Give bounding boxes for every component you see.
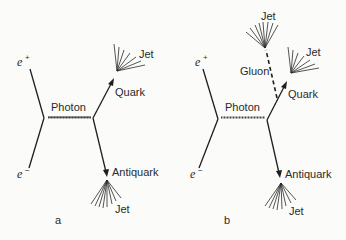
electron-line <box>199 119 218 168</box>
antiquark-line <box>267 120 279 173</box>
panel-a-caption: a <box>55 214 62 226</box>
quark-label: Quark <box>288 88 318 100</box>
positron-symbol: e <box>17 55 23 69</box>
quark-line <box>93 82 112 118</box>
antiquark-jet-label: Jet <box>115 203 130 215</box>
electron-symbol: e <box>17 167 23 181</box>
antiquark-label: Antiquark <box>112 166 159 178</box>
quark-jet-label: Jet <box>139 48 154 60</box>
positron-charge: + <box>203 53 208 62</box>
quark-arrow-icon <box>281 81 287 89</box>
positron-symbol: e <box>195 55 201 69</box>
antiquark-arrow-icon <box>103 169 109 177</box>
positron-line <box>203 69 218 119</box>
antiquark-label: Antiquark <box>285 168 332 180</box>
electron-charge: − <box>198 166 203 175</box>
gluon-jet-fan <box>246 22 278 48</box>
electron-label: e − <box>190 166 203 181</box>
antiquark-arrow-icon <box>276 170 282 178</box>
photon-label: Photon <box>225 101 260 113</box>
electron-symbol: e <box>190 167 196 181</box>
electron-line <box>29 118 44 168</box>
quark-label: Quark <box>115 86 145 98</box>
panel-b-caption: b <box>224 214 230 226</box>
electron-label: e − <box>17 166 30 181</box>
positron-line <box>30 69 44 118</box>
photon-label: Photon <box>51 101 86 113</box>
gluon-jet-label: Jet <box>261 10 276 22</box>
electron-charge: − <box>25 166 30 175</box>
quark-arrow-icon <box>108 78 114 86</box>
feynman-diagram-figure: e + e − Photon Quark Jet Anti <box>0 0 346 240</box>
quark-jet-label: Jet <box>306 46 321 58</box>
positron-label: e + <box>17 53 30 69</box>
panel-b: e + e − Photon Quark Jet Gluon <box>190 10 332 226</box>
positron-charge: + <box>25 53 30 62</box>
antiquark-line <box>93 118 106 172</box>
panel-a: e + e − Photon Quark Jet Anti <box>17 44 159 226</box>
positron-label: e + <box>195 53 208 69</box>
gluon-label: Gluon <box>240 65 269 77</box>
antiquark-jet-label: Jet <box>289 205 304 217</box>
